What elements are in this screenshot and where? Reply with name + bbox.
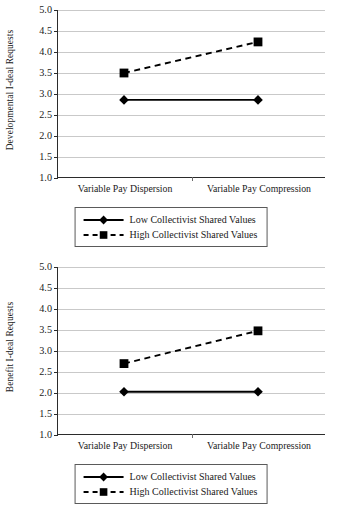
y-tick-mark bbox=[54, 435, 58, 436]
diamond-marker bbox=[119, 95, 129, 105]
legend-item-low: Low Collectivist Shared Values bbox=[83, 212, 258, 227]
series-high bbox=[120, 38, 263, 78]
y-tick-label: 2.5 bbox=[39, 367, 52, 377]
y-tick-label: 2.0 bbox=[39, 388, 52, 398]
plot-figure: Developmental I-deal Requests 1.01.52.02… bbox=[0, 0, 342, 200]
figure-page: Developmental I-deal Requests 1.01.52.02… bbox=[0, 0, 342, 514]
y-tick-label: 2.0 bbox=[39, 131, 52, 141]
y-axis-title-text: Developmental I-deal Requests bbox=[5, 30, 15, 151]
legend: Low Collectivist Shared Values High Coll… bbox=[75, 207, 268, 247]
series-layer bbox=[57, 267, 325, 435]
y-tick-label: 4.0 bbox=[39, 304, 52, 314]
legend-item-high: High Collectivist Shared Values bbox=[83, 227, 258, 242]
plot-wrapper: 1.01.52.02.53.03.54.04.55.0Variable Pay … bbox=[57, 267, 325, 435]
x-tick-label: Variable Pay Compression bbox=[207, 183, 311, 194]
x-tick-label: Variable Pay Dispersion bbox=[78, 183, 173, 194]
square-marker-key bbox=[83, 485, 125, 499]
y-tick-label: 3.0 bbox=[39, 89, 52, 99]
series-high bbox=[120, 326, 263, 368]
diamond-marker bbox=[253, 387, 263, 397]
y-tick-label: 4.0 bbox=[39, 47, 52, 57]
square-marker bbox=[254, 326, 263, 335]
legend-label: Low Collectivist Shared Values bbox=[130, 215, 256, 225]
legend: Low Collectivist Shared Values High Coll… bbox=[75, 464, 268, 504]
y-tick-label: 1.0 bbox=[39, 430, 52, 440]
chart-panel-developmental: Developmental I-deal Requests 1.01.52.02… bbox=[0, 0, 342, 257]
y-tick-label: 4.5 bbox=[39, 283, 52, 293]
legend-item-low: Low Collectivist Shared Values bbox=[83, 469, 258, 484]
y-tick-label: 1.5 bbox=[39, 409, 52, 419]
series-line bbox=[124, 42, 258, 73]
y-tick-mark bbox=[54, 178, 58, 179]
legend-label: High Collectivist Shared Values bbox=[130, 230, 258, 240]
series-line bbox=[124, 331, 258, 364]
chart-panel-benefit: Benefit I-deal Requests 1.01.52.02.53.03… bbox=[0, 257, 342, 514]
y-axis-title: Benefit I-deal Requests bbox=[0, 257, 20, 437]
series-low bbox=[119, 95, 263, 105]
plot-wrapper: 1.01.52.02.53.03.54.04.55.0Variable Pay … bbox=[57, 10, 325, 178]
y-axis-title: Developmental I-deal Requests bbox=[0, 0, 20, 180]
legend-label: Low Collectivist Shared Values bbox=[130, 472, 256, 482]
y-tick-label: 1.0 bbox=[39, 173, 52, 183]
y-tick-label: 3.0 bbox=[39, 346, 52, 356]
y-tick-label: 1.5 bbox=[39, 152, 52, 162]
diamond-marker bbox=[119, 387, 129, 397]
y-tick-label: 5.0 bbox=[39, 5, 52, 15]
square-marker-key bbox=[83, 228, 125, 242]
diamond-marker-key bbox=[83, 470, 125, 484]
diamond-marker bbox=[253, 95, 263, 105]
y-tick-label: 5.0 bbox=[39, 262, 52, 272]
plot-figure: Benefit I-deal Requests 1.01.52.02.53.03… bbox=[0, 257, 342, 457]
x-tick-label: Variable Pay Compression bbox=[207, 440, 311, 451]
series-low bbox=[119, 387, 263, 397]
y-tick-label: 4.5 bbox=[39, 26, 52, 36]
y-tick-label: 2.5 bbox=[39, 110, 52, 120]
series-layer bbox=[57, 10, 325, 178]
square-marker bbox=[254, 38, 263, 47]
y-tick-label: 3.5 bbox=[39, 325, 52, 335]
x-tick-label: Variable Pay Dispersion bbox=[78, 440, 173, 451]
square-marker bbox=[120, 359, 129, 368]
y-axis-title-text: Benefit I-deal Requests bbox=[5, 302, 15, 392]
legend-label: High Collectivist Shared Values bbox=[130, 487, 258, 497]
diamond-marker-key bbox=[83, 213, 125, 227]
y-tick-label: 3.5 bbox=[39, 68, 52, 78]
square-marker bbox=[120, 69, 129, 78]
legend-item-high: High Collectivist Shared Values bbox=[83, 484, 258, 499]
